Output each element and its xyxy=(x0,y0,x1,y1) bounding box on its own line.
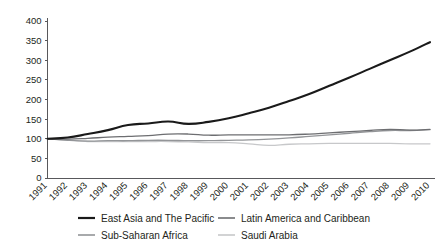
x-axis: 1991199219931994199519961997199819992000… xyxy=(26,178,435,202)
x-tick-label: 2002 xyxy=(248,180,271,203)
x-tick-label: 2005 xyxy=(308,180,331,203)
y-tick-label: 300 xyxy=(26,55,42,66)
y-tick-label: 400 xyxy=(26,15,42,26)
x-tick-label: 1993 xyxy=(66,180,89,203)
x-tick-label: 1996 xyxy=(127,180,150,203)
series-lines xyxy=(48,42,431,145)
x-tick-labels: 1991199219931994199519961997199819992000… xyxy=(26,180,431,203)
y-tick-labels: 050100150200250300350400 xyxy=(26,15,42,183)
y-tick-label: 100 xyxy=(26,133,42,144)
y-tick-label: 150 xyxy=(26,114,42,125)
x-tick-label: 1999 xyxy=(187,180,210,203)
legend-label: Sub-Saharan Africa xyxy=(101,230,188,241)
x-tick-label: 2009 xyxy=(389,180,412,203)
x-tick-label: 1998 xyxy=(167,180,190,203)
x-tick-label: 2006 xyxy=(328,180,351,203)
y-tick-label: 200 xyxy=(26,94,42,105)
x-tick-label: 2001 xyxy=(228,180,251,203)
x-tick-label: 1994 xyxy=(87,180,110,203)
chart-legend: East Asia and The PacificLatin America a… xyxy=(78,213,370,241)
x-tick-label: 1992 xyxy=(46,180,69,203)
x-tick-label: 1991 xyxy=(26,180,49,203)
x-tick-label: 2000 xyxy=(207,180,230,203)
y-tick-label: 50 xyxy=(31,153,42,164)
x-tick-label: 2004 xyxy=(288,180,311,203)
x-tick-label: 2003 xyxy=(268,180,291,203)
legend-label: East Asia and The Pacific xyxy=(101,213,214,224)
x-tick-label: 2008 xyxy=(368,180,391,203)
y-tick-label: 250 xyxy=(26,74,42,85)
legend-label: Saudi Arabia xyxy=(241,230,298,241)
series-line xyxy=(48,42,431,139)
x-tick-label: 1995 xyxy=(107,180,130,203)
line-chart: 050100150200250300350400 199119921993199… xyxy=(0,0,438,249)
chart-canvas: 050100150200250300350400 199119921993199… xyxy=(0,0,438,249)
x-tick-label: 2010 xyxy=(409,180,432,203)
x-tick-label: 2007 xyxy=(348,180,371,203)
legend-label: Latin America and Caribbean xyxy=(241,213,370,224)
x-tick-label: 1997 xyxy=(147,180,170,203)
y-axis: 050100150200250300350400 xyxy=(26,15,48,183)
y-tick-label: 350 xyxy=(26,35,42,46)
